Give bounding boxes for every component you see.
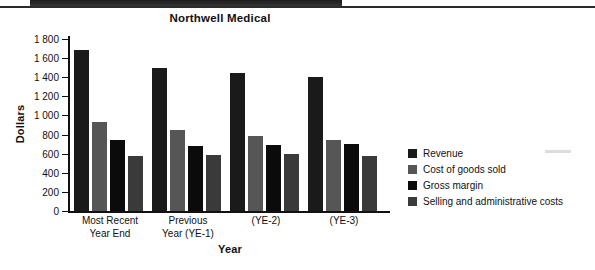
y-axis-tick-label: 1 800 <box>34 34 59 45</box>
y-axis-tick <box>62 173 68 174</box>
legend-swatch-icon <box>408 181 417 190</box>
bar-group: Most RecentYear End <box>74 39 146 211</box>
y-axis-tick <box>62 192 68 193</box>
y-axis-tick-label: 800 <box>42 129 59 140</box>
bar <box>206 155 221 211</box>
x-axis-title: Year <box>150 243 310 255</box>
y-axis-tick-label: 1 000 <box>34 110 59 121</box>
legend-item[interactable]: Revenue <box>408 146 563 160</box>
bar <box>344 144 359 211</box>
y-axis-tick <box>62 211 68 212</box>
y-axis-tick <box>62 135 68 136</box>
bar <box>308 77 323 211</box>
y-axis-tick <box>62 115 68 116</box>
bar <box>92 122 107 211</box>
y-axis-tick <box>62 154 68 155</box>
bar-group: (YE-2) <box>230 39 302 211</box>
y-axis-title: Dollars <box>14 84 26 164</box>
legend-label: Cost of goods sold <box>423 164 506 175</box>
y-axis-tick-label: 1 400 <box>34 72 59 83</box>
bar-chart-figure: Northwell Medical Dollars 02004006008001… <box>0 0 595 270</box>
bar <box>284 154 299 211</box>
bar <box>362 156 377 211</box>
y-axis-tick-label: 400 <box>42 167 59 178</box>
legend-item[interactable]: Cost of goods sold <box>408 162 563 176</box>
legend-label: Selling and administrative costs <box>423 196 563 207</box>
bar <box>188 146 203 211</box>
y-axis-tick <box>62 96 68 97</box>
bar <box>248 136 263 211</box>
legend-swatch-icon <box>408 165 417 174</box>
legend-swatch-icon <box>408 197 417 206</box>
y-axis-tick <box>62 39 68 40</box>
legend-item[interactable]: Selling and administrative costs <box>408 194 563 208</box>
legend-item[interactable]: Gross margin <box>408 178 563 192</box>
y-axis-tick-label: 1 600 <box>34 53 59 64</box>
x-axis-category-line: (YE-3) <box>289 215 399 228</box>
y-axis-tick <box>62 77 68 78</box>
bar <box>152 68 167 211</box>
bar <box>230 73 245 211</box>
legend-label: Gross margin <box>423 180 483 191</box>
bar <box>170 130 185 211</box>
bar-group: (YE-3) <box>308 39 380 211</box>
plot-area: 02004006008001 0001 2001 4001 6001 800 M… <box>68 39 388 211</box>
bar <box>326 140 341 211</box>
bar <box>110 140 125 211</box>
x-axis-category-label: (YE-3) <box>289 215 399 228</box>
bar-group: PreviousYear (YE-1) <box>152 39 224 211</box>
y-axis-tick-label: 600 <box>42 148 59 159</box>
x-axis-category-line: Year (YE-1) <box>133 228 243 241</box>
x-axis-line <box>68 211 390 213</box>
scan-smudge <box>545 150 571 153</box>
y-axis-tick-label: 1 200 <box>34 91 59 102</box>
bar <box>266 145 281 211</box>
legend-swatch-icon <box>408 149 417 158</box>
bar <box>74 50 89 211</box>
bar <box>128 156 143 211</box>
chart-title: Northwell Medical <box>130 12 310 24</box>
y-axis-tick-label: 200 <box>42 186 59 197</box>
legend-label: Revenue <box>423 148 463 159</box>
chart-legend: RevenueCost of goods soldGross marginSel… <box>408 146 563 210</box>
y-axis-tick <box>62 58 68 59</box>
